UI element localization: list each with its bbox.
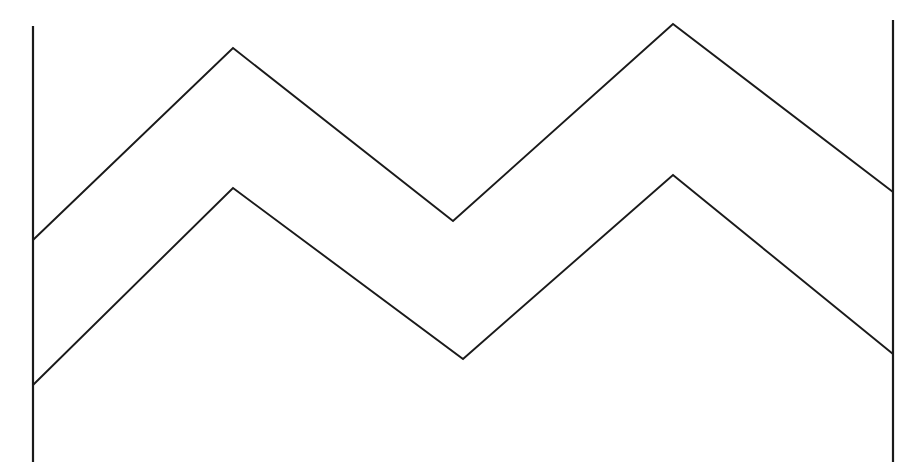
zigzag-figure-svg <box>0 0 924 473</box>
figure-canvas <box>0 0 924 473</box>
figure-background <box>0 0 924 473</box>
